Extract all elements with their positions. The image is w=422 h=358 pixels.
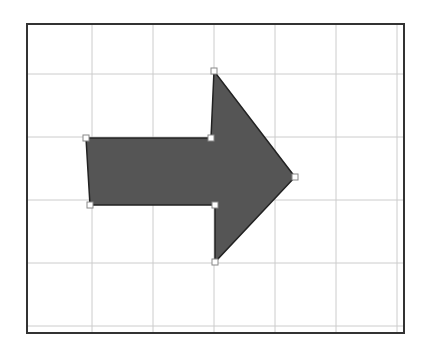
- vertex-handle[interactable]: [208, 135, 214, 141]
- vertex-handle[interactable]: [87, 202, 93, 208]
- vertex-handle[interactable]: [83, 135, 89, 141]
- vertex-handle[interactable]: [211, 68, 217, 74]
- arrow-shape[interactable]: [86, 71, 295, 262]
- vertex-handle[interactable]: [212, 202, 218, 208]
- vertex-handle[interactable]: [212, 259, 218, 265]
- diagram-canvas: [0, 0, 422, 358]
- vertex-handle[interactable]: [292, 174, 298, 180]
